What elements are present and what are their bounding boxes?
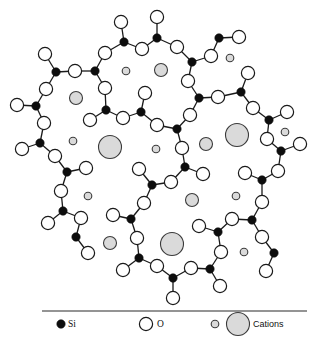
oxygen-atom [259,264,272,277]
silicon-atom [248,216,256,224]
silicon-atom [277,147,285,155]
oxygen-atom [135,42,148,55]
legend-si-label: Si [68,319,76,329]
silicon-atom [188,58,196,66]
oxygen-atom [38,47,51,60]
cation-small [152,145,160,153]
cation-medium [104,237,117,250]
oxygen-atom [106,208,119,221]
oxygen-atom [164,175,177,188]
oxygen-atom [10,98,23,111]
oxygen-atom [260,132,273,145]
silicon-atom [195,94,203,102]
oxygen-atom [196,167,209,180]
cation-small [84,192,92,200]
oxygen-atom [81,246,94,259]
silicon-atom [181,163,189,171]
legend-o-label: O [157,319,164,329]
caption-cutoff [70,344,260,348]
silicon-atom [91,67,99,75]
oxygen-atom [137,196,150,209]
oxygen-atom [150,10,163,23]
oxygen-atom [41,216,54,229]
cation-small [226,54,234,62]
cation-medium [200,138,213,151]
silicon-atom [59,207,67,215]
cation-medium [186,194,199,207]
oxygen-atom [150,118,163,131]
legend-o-icon [139,317,152,330]
oxygen-atom [138,86,151,99]
oxygen-atom [225,212,238,225]
oxygen-atom [213,279,226,292]
oxygen-atom [130,231,143,244]
legend: Si O Cations [42,311,307,336]
cation-small [122,67,130,75]
oxygen-atom [271,164,284,177]
oxygen-atom [150,259,163,272]
oxygen-atom [74,211,87,224]
oxygen-atom [98,46,111,59]
silicon-atom [63,168,71,176]
oxygen-atom [214,245,227,258]
oxygen-atom [192,219,205,232]
silicon-atom [32,102,40,110]
oxygen-atom [204,49,217,62]
oxygen-atom [246,101,259,114]
cation-medium [70,92,83,105]
oxygen-atom [293,137,306,150]
silicon-atom [137,108,145,116]
oxygen-atom [132,162,145,175]
silicon-atom [169,274,177,282]
cation-large [99,136,122,159]
silicon-atom [215,34,223,42]
cation-medium [155,64,168,77]
cation-small [232,192,240,200]
silicon-atom [206,265,214,273]
oxygen-atom [175,141,188,154]
silicon-atom [270,249,278,257]
silicon-atom [265,116,273,124]
silicon-atom [173,125,181,133]
oxygen-atom [255,230,268,243]
silicon-atom [214,228,222,236]
silicon-atom [127,215,135,223]
silicon-atom [135,254,143,262]
oxygen-atom [79,161,92,174]
oxygen-atom [68,64,81,77]
legend-small-cation-icon [211,320,219,328]
cation-large [161,233,184,256]
legend-large-cation-icon [227,313,250,336]
silicon-atom [72,233,80,241]
cation-small [281,128,289,136]
oxygen-atom [280,105,293,118]
oxygen-atom [114,15,127,28]
oxygen-atom [255,195,268,208]
oxygen-atom [166,291,179,304]
silicon-atom [148,181,156,189]
legend-cations-label: Cations [253,319,284,329]
oxygen-atom [37,116,50,129]
oxygen-atom [241,66,254,79]
oxygen-atom [184,261,197,274]
oxygen-atom [238,166,251,179]
oxygen-atoms [10,10,306,304]
silicon-atom [237,88,245,96]
oxygen-atom [116,263,129,276]
oxygen-atom [15,142,28,155]
oxygen-atom [183,108,196,121]
cation-large [226,124,249,147]
silicate-network-diagram: Si O Cations [0,0,316,348]
oxygen-atom [116,111,129,124]
silicon-atom [102,106,110,114]
oxygen-atom [181,74,194,87]
oxygen-atom [54,184,67,197]
cation-small [240,248,248,256]
silicon-atom [36,139,44,147]
oxygen-atom [98,81,111,94]
silicon-atom [52,68,60,76]
oxygen-atom [232,30,245,43]
oxygen-atom [170,40,183,53]
oxygen-atom [83,113,96,126]
silicon-atom [258,176,266,184]
